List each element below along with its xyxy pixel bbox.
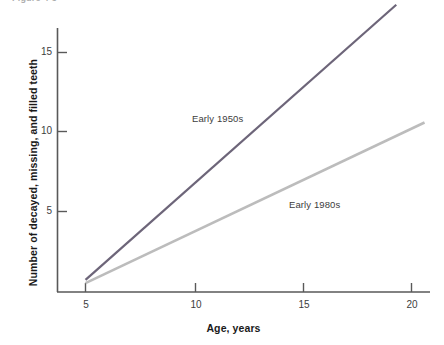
series-line-early-1950s: [86, 5, 397, 280]
x-tick-label-20: 20: [397, 300, 427, 310]
series-label-early-1950s: Early 1950s: [192, 113, 243, 124]
data-series-group: [86, 5, 425, 283]
series-label-early-1980s: Early 1980s: [289, 199, 340, 210]
x-tick-label-15: 15: [289, 300, 319, 310]
y-tick-label-10: 10: [26, 126, 52, 136]
x-axis-title: Age, years: [57, 322, 410, 334]
x-tick-label-5: 5: [71, 300, 101, 310]
plot-area: [0, 0, 444, 345]
y-tick-label-5: 5: [26, 206, 52, 216]
series-line-early-1980s: [86, 122, 425, 283]
x-tick-label-10: 10: [181, 300, 211, 310]
chart-figure: Figure 4-3 15 10 5 5 10 15 20 Number of …: [0, 0, 444, 345]
y-tick-label-15: 15: [26, 47, 52, 57]
